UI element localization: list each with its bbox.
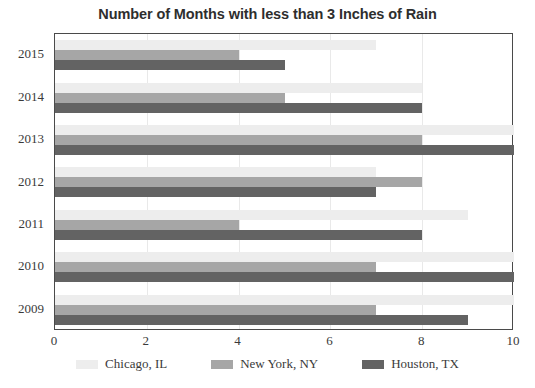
y-axis-tick-label: 2012 <box>0 175 44 189</box>
x-axis-tick-label: 2 <box>143 333 150 349</box>
legend-swatch <box>362 360 384 369</box>
bar <box>55 230 422 240</box>
y-axis-tick-label: 2015 <box>0 47 44 61</box>
bar <box>55 125 514 135</box>
x-axis-tick-label: 4 <box>234 333 241 349</box>
bar <box>55 220 239 230</box>
bar-group <box>55 119 512 161</box>
bar-group <box>55 34 512 76</box>
chart-container: Number of Months with less than 3 Inches… <box>0 0 535 388</box>
chart-legend: Chicago, ILNew York, NYHouston, TX <box>0 356 535 372</box>
bar <box>55 167 376 177</box>
legend-swatch <box>76 360 98 369</box>
bar <box>55 83 422 93</box>
legend-label: New York, NY <box>240 356 318 372</box>
plot-area <box>54 33 513 330</box>
x-axis-tick-label: 0 <box>51 333 58 349</box>
legend-swatch <box>211 360 233 369</box>
legend-item[interactable]: Houston, TX <box>362 356 459 372</box>
bar <box>55 272 514 282</box>
y-axis-tick-label: 2010 <box>0 259 44 273</box>
bar <box>55 252 514 262</box>
legend-label: Chicago, IL <box>105 356 167 372</box>
legend-label: Houston, TX <box>391 356 459 372</box>
bar <box>55 50 239 60</box>
bar <box>55 295 514 305</box>
legend-item[interactable]: New York, NY <box>211 356 318 372</box>
bar <box>55 60 285 70</box>
bar <box>55 145 514 155</box>
bar <box>55 135 422 145</box>
x-axis-labels: 0246810 <box>0 333 535 355</box>
bar-group <box>55 161 512 203</box>
bar <box>55 103 422 113</box>
bar <box>55 262 376 272</box>
y-axis-labels: 2015201420132012201120102009 <box>0 33 50 330</box>
bar <box>55 305 376 315</box>
legend-item[interactable]: Chicago, IL <box>76 356 167 372</box>
bar <box>55 210 468 220</box>
bar-group <box>55 204 512 246</box>
y-axis-tick-label: 2009 <box>0 302 44 316</box>
bar <box>55 315 468 325</box>
y-axis-tick-label: 2013 <box>0 132 44 146</box>
bar <box>55 40 376 50</box>
x-axis-tick-label: 8 <box>418 333 425 349</box>
bar-groups <box>55 34 512 329</box>
bar <box>55 187 376 197</box>
y-axis-tick-label: 2014 <box>0 90 44 104</box>
chart-title: Number of Months with less than 3 Inches… <box>0 6 535 22</box>
bar-group <box>55 289 512 331</box>
bar-group <box>55 76 512 118</box>
x-axis-tick-label: 6 <box>326 333 333 349</box>
y-axis-tick-label: 2011 <box>0 217 44 231</box>
bar <box>55 177 422 187</box>
bar-group <box>55 246 512 288</box>
x-axis-tick-label: 10 <box>507 333 520 349</box>
bar <box>55 93 285 103</box>
